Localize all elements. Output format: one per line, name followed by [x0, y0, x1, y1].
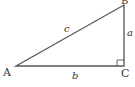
triangle-diagram: A B C c a b [0, 0, 135, 87]
vertex-label-c: C [121, 67, 129, 80]
vertex-label-a: A [2, 66, 12, 79]
right-angle-marker [117, 60, 124, 66]
vertex-label-b: B [121, 0, 128, 6]
side-label-a: a [127, 27, 133, 38]
side-label-b: b [72, 70, 78, 81]
triangle-shape [16, 5, 124, 66]
side-label-c: c [64, 23, 70, 34]
